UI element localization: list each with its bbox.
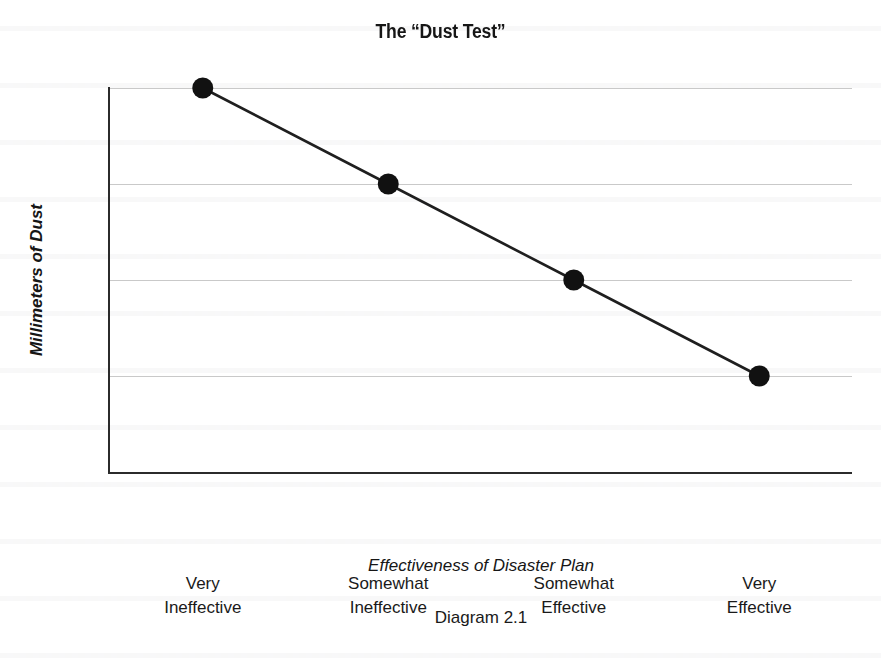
plot-area: 01234 VeryIneffectiveSomewhatIneffective…	[110, 88, 852, 472]
diagram-figure: The “Dust Test” Millimeters of Dust 0123…	[0, 0, 881, 668]
data-point-marker	[192, 78, 213, 99]
x-axis-line	[108, 472, 852, 474]
data-point-marker	[378, 174, 399, 195]
figure-caption: Diagram 2.1	[110, 608, 852, 628]
x-axis-title: Effectiveness of Disaster Plan	[110, 556, 852, 576]
data-series	[110, 88, 852, 472]
series-line	[203, 88, 760, 376]
y-axis-title: Millimeters of Dust	[20, 88, 54, 472]
data-point-marker	[749, 366, 770, 387]
chart-title: The “Dust Test”	[53, 20, 828, 43]
data-point-marker	[563, 270, 584, 291]
